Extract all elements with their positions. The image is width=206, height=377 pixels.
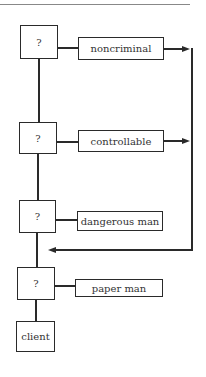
- spine-4: [35, 299, 37, 321]
- return-arrowhead-icon: [48, 247, 56, 253]
- decision-node-4-label: ?: [33, 278, 38, 289]
- arrowhead-2-icon: [182, 138, 190, 144]
- outcome-controllable: controllable: [78, 130, 164, 152]
- decision-node-3-label: ?: [35, 211, 40, 222]
- spine-3: [36, 232, 38, 267]
- outcome-paper-man-label: paper man: [92, 283, 147, 294]
- spine-2: [37, 153, 39, 200]
- decision-node-1-label: ?: [36, 37, 41, 48]
- decision-node-2-label: ?: [35, 133, 40, 144]
- return-line-horizontal: [56, 249, 193, 251]
- outcome-paper-man: paper man: [75, 279, 163, 297]
- connector-3: [56, 219, 77, 221]
- connector-2: [57, 141, 78, 143]
- outcome-noncriminal: noncriminal: [78, 37, 164, 60]
- decision-node-3: ?: [19, 200, 56, 233]
- return-line-vertical: [191, 48, 193, 250]
- decision-node-4: ?: [17, 267, 55, 300]
- decision-node-2: ?: [19, 122, 57, 154]
- arrow-line-1: [164, 48, 182, 50]
- terminal-client: client: [16, 321, 55, 352]
- outcome-dangerous-man: dangerous man: [77, 211, 163, 231]
- top-rule: [0, 4, 190, 5]
- arrow-line-2: [164, 140, 182, 142]
- outcome-controllable-label: controllable: [91, 136, 152, 147]
- decision-node-1: ?: [20, 25, 58, 59]
- connector-1: [58, 47, 78, 49]
- outcome-dangerous-man-label: dangerous man: [81, 216, 160, 227]
- outcome-noncriminal-label: noncriminal: [91, 43, 152, 54]
- terminal-client-label: client: [21, 331, 49, 342]
- spine-1: [38, 58, 40, 122]
- connector-4: [55, 285, 75, 287]
- arrowhead-1-icon: [182, 46, 190, 52]
